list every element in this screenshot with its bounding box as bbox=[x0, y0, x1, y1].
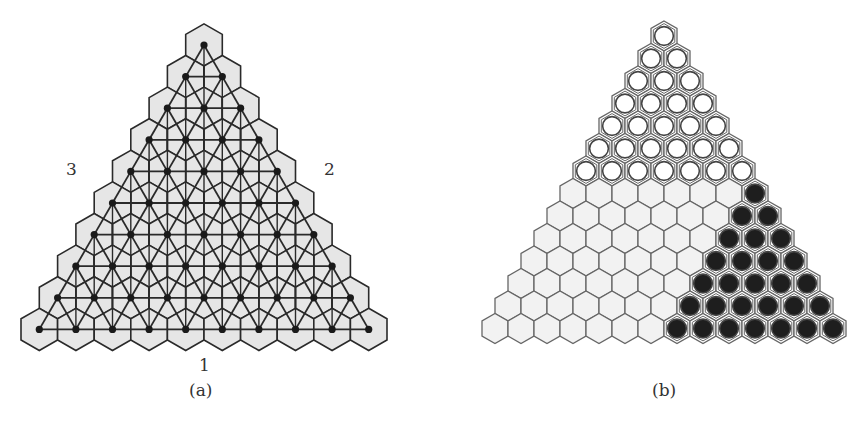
white-stone bbox=[707, 117, 726, 136]
black-stone bbox=[720, 274, 739, 293]
white-stone bbox=[681, 117, 700, 136]
black-stone bbox=[733, 297, 752, 316]
black-stone bbox=[798, 319, 817, 338]
black-stone bbox=[694, 319, 713, 338]
white-stone bbox=[655, 162, 674, 181]
black-stone bbox=[746, 319, 765, 338]
hex-cell-empty bbox=[638, 314, 664, 344]
caption-a: (a) bbox=[189, 380, 212, 400]
white-stone bbox=[707, 162, 726, 181]
black-stone bbox=[733, 252, 752, 271]
white-stone bbox=[681, 72, 700, 91]
black-stone bbox=[824, 319, 843, 338]
hex-cell-empty bbox=[586, 314, 612, 344]
black-stone bbox=[759, 207, 778, 226]
white-stone bbox=[629, 72, 648, 91]
hex-cell-empty bbox=[560, 314, 586, 344]
black-stone bbox=[668, 319, 687, 338]
white-stone bbox=[668, 139, 687, 158]
black-stone bbox=[785, 297, 804, 316]
black-stone bbox=[746, 274, 765, 293]
side-label-1: 1 bbox=[199, 355, 210, 375]
white-stone bbox=[668, 94, 687, 113]
black-stone bbox=[785, 252, 804, 271]
hex-cell-empty bbox=[482, 314, 508, 344]
side-label-3: 3 bbox=[66, 159, 77, 179]
white-stone bbox=[642, 139, 661, 158]
white-stone bbox=[642, 94, 661, 113]
black-stone bbox=[720, 319, 739, 338]
white-stone bbox=[629, 162, 648, 181]
black-stone bbox=[681, 297, 700, 316]
black-stone bbox=[746, 184, 765, 203]
white-stone bbox=[655, 27, 674, 46]
caption-b: (b) bbox=[652, 380, 676, 400]
white-stone bbox=[694, 94, 713, 113]
black-stone bbox=[694, 274, 713, 293]
black-stone bbox=[746, 229, 765, 248]
white-stone bbox=[668, 49, 687, 68]
white-stone bbox=[616, 94, 635, 113]
white-stone bbox=[642, 49, 661, 68]
white-stone bbox=[655, 72, 674, 91]
white-stone bbox=[694, 139, 713, 158]
white-stone bbox=[733, 162, 752, 181]
side-label-2: 2 bbox=[324, 159, 335, 179]
white-stone bbox=[603, 162, 622, 181]
white-stone bbox=[720, 139, 739, 158]
white-stone bbox=[629, 117, 648, 136]
white-stone bbox=[681, 162, 700, 181]
white-stone bbox=[590, 139, 609, 158]
black-stone bbox=[707, 252, 726, 271]
black-stone bbox=[759, 252, 778, 271]
white-stone bbox=[655, 117, 674, 136]
black-stone bbox=[720, 229, 739, 248]
white-stone bbox=[577, 162, 596, 181]
black-stone bbox=[811, 297, 830, 316]
hex-cell-empty bbox=[612, 314, 638, 344]
black-stone bbox=[772, 274, 791, 293]
white-stone bbox=[616, 139, 635, 158]
black-stone bbox=[759, 297, 778, 316]
black-stone bbox=[772, 319, 791, 338]
black-stone bbox=[798, 274, 817, 293]
hex-cell-empty bbox=[534, 314, 560, 344]
white-stone bbox=[603, 117, 622, 136]
black-stone bbox=[733, 207, 752, 226]
black-stone bbox=[772, 229, 791, 248]
black-stone bbox=[707, 297, 726, 316]
figure-b-hex-board bbox=[0, 0, 866, 432]
hex-cell-empty bbox=[508, 314, 534, 344]
